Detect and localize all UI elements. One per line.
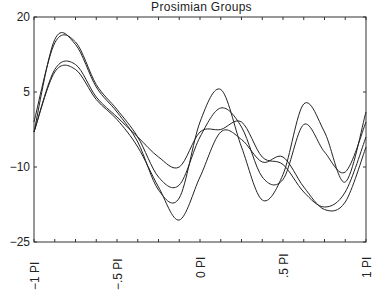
series-line-2 [34, 35, 366, 188]
series-line-4 [34, 65, 366, 220]
series-line-3 [34, 61, 366, 207]
axes-frame [34, 17, 366, 242]
series-lines [34, 33, 366, 221]
